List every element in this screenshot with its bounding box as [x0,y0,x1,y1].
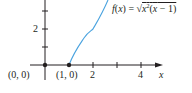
origin-label: (0, 0) [8,70,30,80]
x-axis-label: x [159,70,163,80]
function-curve [69,0,108,65]
y-tick-label-2: 2 [33,24,38,34]
x-tick-label-4: 4 [138,70,143,80]
point-one-zero [67,63,71,67]
x-axis-arrow-icon [155,63,163,68]
function-label: f(x) = √x2(x − 1) [112,3,176,14]
point-origin [43,63,47,67]
x-tick-label-2: 2 [90,70,95,80]
point-label-one-zero: (1, 0) [56,70,78,80]
